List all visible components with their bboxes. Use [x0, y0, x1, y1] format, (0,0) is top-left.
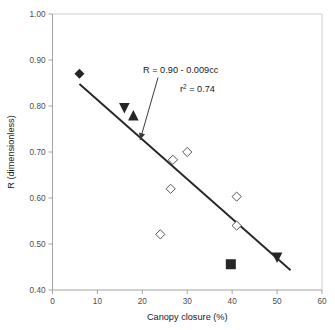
y-tick-label: 0.40: [30, 286, 46, 295]
y-tick-label: 0.60: [30, 194, 46, 203]
regression-line: [79, 84, 290, 270]
data-markers: [74, 69, 282, 269]
x-axis-title: Canopy closure (%): [147, 312, 228, 322]
chart-figure: 01020304050600.400.500.600.700.800.901.0…: [0, 0, 335, 330]
x-tick-label: 60: [317, 297, 327, 306]
data-point-diamond-open: [232, 192, 241, 201]
y-tick-label: 0.50: [30, 240, 46, 249]
data-point-diamond-open: [183, 147, 192, 156]
data-point-triangle-up-filled: [128, 110, 139, 121]
tick-labels: 01020304050600.400.500.600.700.800.901.0…: [30, 10, 327, 306]
data-point-diamond-open: [166, 184, 175, 193]
x-tick-label: 0: [50, 297, 55, 306]
x-tick-label: 10: [93, 297, 103, 306]
y-tick-label: 1.00: [30, 10, 46, 19]
r-squared-label: r2 = 0.74: [180, 83, 215, 94]
data-point-triangle-down-filled: [119, 103, 130, 114]
arrow-shaft: [140, 77, 158, 140]
y-tick-label: 0.70: [30, 148, 46, 157]
x-tick-label: 30: [183, 297, 193, 306]
y-axis-title: R (dimensionless): [6, 115, 16, 189]
scatter-plot: 01020304050600.400.500.600.700.800.901.0…: [0, 0, 335, 330]
data-point-square-filled: [226, 259, 236, 269]
x-tick-label: 40: [228, 297, 238, 306]
annotation-arrow: [139, 77, 158, 140]
equation-label: R = 0.90 - 0.009cc: [143, 65, 219, 75]
x-tick-label: 20: [138, 297, 148, 306]
data-point-diamond-filled: [74, 69, 84, 79]
trend-line: [79, 84, 290, 270]
data-point-diamond-open: [232, 221, 241, 230]
y-tick-label: 0.80: [30, 102, 46, 111]
data-point-diamond-open: [156, 230, 165, 239]
x-tick-label: 50: [273, 297, 283, 306]
y-tick-label: 0.90: [30, 56, 46, 65]
